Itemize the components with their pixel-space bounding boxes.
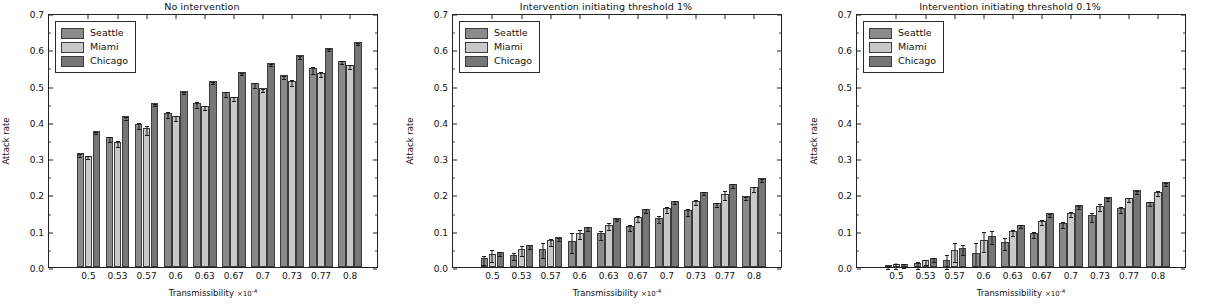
x-tick-mark xyxy=(291,15,292,19)
error-bar-cap xyxy=(1090,222,1094,223)
y-axis-label: Attack rate xyxy=(406,117,415,164)
y-tick-mark xyxy=(777,123,781,124)
x-tick-mark xyxy=(666,15,667,19)
error-bar-cap xyxy=(261,89,265,90)
x-axis-label: Transmissibility×10-4 xyxy=(48,286,378,299)
error-bar-cap xyxy=(282,79,286,80)
error-bar xyxy=(571,233,572,253)
error-bar-cap xyxy=(945,269,949,270)
error-bar-cap xyxy=(673,201,677,202)
y-tick-label: 0.7 xyxy=(434,11,448,20)
error-bar-cap xyxy=(1040,225,1044,226)
error-bar xyxy=(600,231,601,240)
y-tick-mark xyxy=(857,196,861,197)
x-tick-mark xyxy=(204,15,205,19)
error-bar-cap xyxy=(94,134,98,135)
x-tick-label: 0.7 xyxy=(256,271,270,281)
error-bar xyxy=(946,255,947,269)
error-bar-cap xyxy=(990,231,994,232)
error-bar-cap xyxy=(319,77,323,78)
error-bar-cap xyxy=(311,67,315,68)
error-bar xyxy=(579,230,580,239)
y-minor-tick xyxy=(1183,178,1185,179)
error-bar-cap xyxy=(1148,206,1152,207)
bar-miami xyxy=(1125,198,1133,267)
error-bar-cap xyxy=(902,268,906,269)
y-minor-tick xyxy=(1183,214,1185,215)
error-bar-cap xyxy=(1119,213,1123,214)
error-bar-cap xyxy=(549,239,553,240)
x-tick-label: 0.73 xyxy=(686,271,706,281)
legend: Seattle Miami Chicago xyxy=(863,21,944,73)
x-tick-mark xyxy=(88,15,89,19)
bar-chicago xyxy=(729,184,737,267)
x-tick-label: 0.67 xyxy=(1032,271,1052,281)
bar-miami xyxy=(85,156,93,267)
y-tick-label: 0.5 xyxy=(838,83,852,92)
y-tick-mark xyxy=(777,160,781,161)
x-tick-mark xyxy=(550,15,551,19)
error-bar-cap xyxy=(311,74,315,75)
bar-miami xyxy=(1154,192,1162,267)
y-minor-tick xyxy=(453,105,455,106)
bar-seattle xyxy=(742,196,750,267)
y-minor-tick xyxy=(375,105,377,106)
error-bar-cap xyxy=(182,94,186,95)
bar-miami xyxy=(750,187,758,267)
y-minor-tick xyxy=(779,105,781,106)
error-bar-cap xyxy=(174,116,178,117)
error-bar-cap xyxy=(644,209,648,210)
y-tick-label: 0.4 xyxy=(434,119,448,128)
error-bar-cap xyxy=(731,188,735,189)
error-bar-cap xyxy=(982,232,986,233)
y-minor-tick xyxy=(453,69,455,70)
error-bar-cap xyxy=(924,265,928,266)
bar-chicago xyxy=(584,227,592,267)
error-bar-cap xyxy=(1135,191,1139,192)
error-bar-cap xyxy=(1106,201,1110,202)
x-tick-mark xyxy=(1070,15,1071,19)
x-tick-mark xyxy=(117,15,118,19)
y-tick-mark xyxy=(1181,123,1185,124)
error-bar-cap xyxy=(348,65,352,66)
error-bar-cap xyxy=(116,147,120,148)
error-bar-cap xyxy=(528,249,532,250)
error-bar-cap xyxy=(356,43,360,44)
error-bar-cap xyxy=(86,156,90,157)
x-tick-mark xyxy=(608,15,609,19)
error-bar-cap xyxy=(116,141,120,142)
legend: Seattle Miami Chicago xyxy=(459,21,540,73)
y-tick-mark xyxy=(49,196,53,197)
error-bar-cap xyxy=(124,120,128,121)
error-bar-cap xyxy=(137,129,141,130)
error-bar-cap xyxy=(290,80,294,81)
x-tick-mark xyxy=(1129,15,1130,19)
error-bar-cap xyxy=(108,142,112,143)
error-bar xyxy=(1091,213,1092,222)
error-bar-cap xyxy=(694,200,698,201)
x-tick-label: 0.63 xyxy=(195,271,215,281)
y-tick-mark xyxy=(453,269,457,270)
legend-swatch-icon xyxy=(869,28,892,39)
x-tick-mark xyxy=(521,15,522,19)
bar-chicago xyxy=(93,131,101,267)
error-bar-cap xyxy=(760,182,764,183)
error-bar-cap xyxy=(953,262,957,263)
legend-item-seattle: Seattle xyxy=(869,26,936,40)
error-bar xyxy=(983,232,984,252)
x-tick-label: 0.5 xyxy=(81,271,95,281)
y-minor-tick xyxy=(375,214,377,215)
y-minor-tick xyxy=(49,33,51,34)
x-tick-mark xyxy=(350,15,351,19)
y-tick-mark xyxy=(373,232,377,233)
legend-swatch-icon xyxy=(869,56,892,67)
error-bar-cap xyxy=(1077,209,1081,210)
error-bar-cap xyxy=(232,97,236,98)
error-bar-cap xyxy=(723,191,727,192)
panel-threshold-1pct: Intervention initiating threshold 1% Att… xyxy=(404,0,808,306)
y-tick-mark xyxy=(857,15,861,16)
error-bar-cap xyxy=(945,255,949,256)
bar-chicago xyxy=(238,72,246,267)
y-tick-mark xyxy=(857,269,861,270)
error-bar xyxy=(146,126,147,135)
